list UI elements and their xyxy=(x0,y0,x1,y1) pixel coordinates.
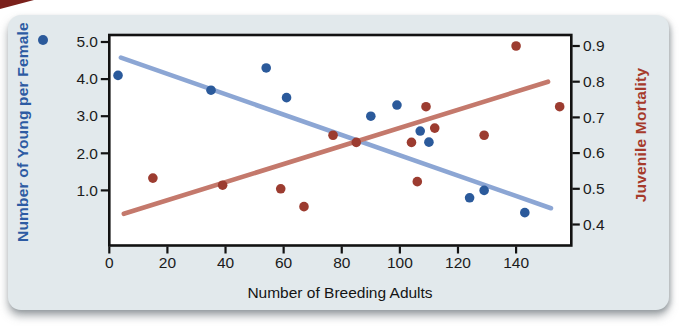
red-point xyxy=(511,41,521,51)
red-point xyxy=(407,138,417,148)
blue-point xyxy=(424,137,434,147)
right-tick-label: 0.9 xyxy=(583,37,605,54)
blue-point xyxy=(206,85,216,95)
red-point xyxy=(299,202,309,212)
red-point xyxy=(328,130,338,140)
blue-point xyxy=(113,71,123,81)
left-tick-label: 2.0 xyxy=(76,145,98,162)
x-tick-label: 80 xyxy=(333,254,351,271)
right-tick-label: 0.7 xyxy=(583,109,605,126)
x-tick-label: 100 xyxy=(387,254,413,271)
left-tick-label: 4.0 xyxy=(76,70,98,87)
blue-point xyxy=(261,63,271,73)
left-tick-label: 1.0 xyxy=(76,182,98,199)
blue-point xyxy=(479,186,489,196)
red-point xyxy=(218,180,228,190)
x-tick-label: 40 xyxy=(217,254,235,271)
x-tick-label: 0 xyxy=(105,254,114,271)
red-point xyxy=(430,123,440,133)
blue-point xyxy=(282,93,292,103)
left-tick-label: 3.0 xyxy=(76,107,98,124)
x-tick-label: 20 xyxy=(159,254,177,271)
left-axis-title: Number of Young per Female xyxy=(14,32,34,242)
right-tick-label: 0.4 xyxy=(583,216,605,233)
red-point xyxy=(555,102,565,112)
right-tick-label: 0.8 xyxy=(583,73,605,90)
right-tick-label: 0.5 xyxy=(583,180,605,197)
red-point xyxy=(479,130,489,140)
red-point xyxy=(413,177,423,187)
red-point xyxy=(148,173,158,183)
blue-point xyxy=(392,100,402,110)
red-point xyxy=(351,138,361,148)
decorative-blue-dot xyxy=(38,35,48,45)
scatter-plot: 0204060801001201405.04.03.02.01.00.90.80… xyxy=(0,0,688,331)
x-tick-label: 140 xyxy=(503,254,529,271)
right-axis-title: Juvenile Mortality xyxy=(632,55,652,215)
x-axis-title: Number of Breeding Adults xyxy=(204,284,476,302)
right-tick-label: 0.6 xyxy=(583,144,605,161)
blue-point xyxy=(465,193,475,203)
blue-point xyxy=(415,126,425,136)
blue-point xyxy=(366,111,376,121)
red-point xyxy=(276,184,286,194)
left-tick-label: 5.0 xyxy=(76,33,98,50)
red-point xyxy=(421,102,431,112)
blue-point xyxy=(520,208,530,218)
x-tick-label: 60 xyxy=(275,254,293,271)
plot-frame xyxy=(109,35,571,246)
x-tick-label: 120 xyxy=(445,254,471,271)
